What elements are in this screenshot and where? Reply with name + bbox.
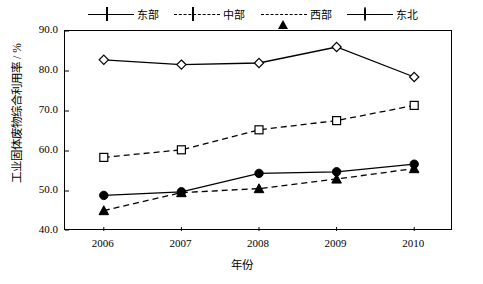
chart-legend: 东部 中部 西部 东北 [88, 4, 418, 26]
series-marker-3 [332, 168, 340, 176]
legend-label-1: 中部 [223, 10, 245, 21]
plot-area [64, 30, 452, 230]
series-marker-1 [177, 146, 185, 154]
x-tick-label: 2010 [388, 238, 438, 249]
x-tick-label: 2006 [78, 238, 128, 249]
legend-swatch-square-open-icon [174, 9, 220, 21]
x-tick-label: 2007 [155, 238, 205, 249]
y-tick-label: 90.0 [18, 24, 58, 35]
legend-label-3: 东北 [396, 10, 418, 21]
series-marker-3 [255, 169, 263, 177]
legend-label-0: 东部 [137, 10, 159, 21]
series-marker-0 [410, 72, 419, 81]
series-marker-3 [100, 191, 108, 199]
series-marker-0 [99, 55, 108, 64]
legend-label-2: 西部 [310, 10, 332, 21]
legend-item-0: 东部 [88, 9, 159, 21]
y-tick-label: 40.0 [18, 224, 58, 235]
series-marker-0 [254, 58, 263, 67]
legend-swatch-diamond-open-icon [88, 9, 134, 21]
series-marker-1 [333, 117, 341, 125]
y-tick-label: 50.0 [18, 184, 58, 195]
series-layer [65, 31, 453, 231]
legend-swatch-circle-filled-icon [347, 9, 393, 21]
series-marker-0 [177, 60, 186, 69]
x-axis-label: 年份 [0, 256, 483, 272]
series-marker-0 [332, 42, 341, 51]
series-marker-1 [255, 126, 263, 134]
series-marker-3 [177, 188, 185, 196]
y-tick-label: 60.0 [18, 144, 58, 155]
x-tick-label: 2009 [311, 238, 361, 249]
legend-item-1: 中部 [174, 9, 245, 21]
y-tick-label: 70.0 [18, 104, 58, 115]
series-marker-1 [100, 153, 108, 161]
y-tick-label: 80.0 [18, 64, 58, 75]
legend-item-3: 东北 [347, 9, 418, 21]
series-marker-1 [410, 101, 418, 109]
series-marker-3 [410, 160, 418, 168]
legend-swatch-triangle-filled-icon [261, 9, 307, 21]
legend-item-2: 西部 [261, 9, 332, 21]
x-tick-label: 2008 [233, 238, 283, 249]
chart-container: 东部 中部 西部 东北 工业固体废物综合利用率 / % [0, 0, 483, 284]
